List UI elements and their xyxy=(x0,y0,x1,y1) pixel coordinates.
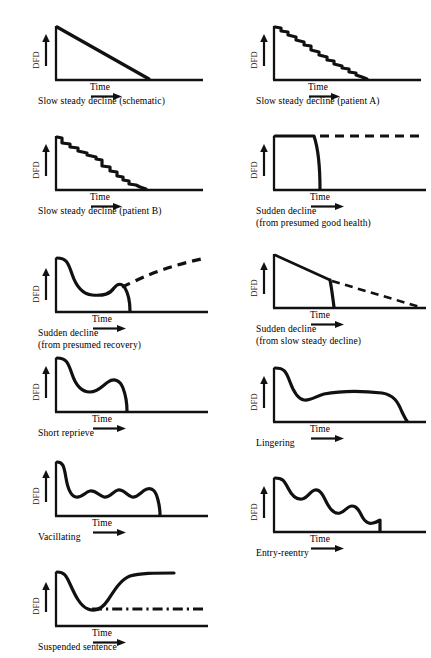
y-axis-label: DFD xyxy=(249,393,259,411)
trajectory-curve xyxy=(275,27,367,79)
y-axis-label: DFD xyxy=(249,279,259,297)
y-axis-label: DFD xyxy=(31,487,41,505)
expected-trajectory-dashed xyxy=(332,281,420,307)
plot-area: DFD xyxy=(248,126,428,198)
plot-area: DFD xyxy=(30,348,210,420)
x-axis-caption: Time xyxy=(310,534,346,553)
caption-line-1: Entry-reentry xyxy=(256,547,309,558)
x-axis-label: Time xyxy=(92,414,112,424)
y-axis-label: DFD xyxy=(31,597,41,615)
trajectory-curve xyxy=(275,368,407,421)
plot-area: DFD xyxy=(248,16,423,88)
panel-short-reprieve: DFD Time Short reprieve xyxy=(30,348,210,420)
x-axis-label: Time xyxy=(90,192,110,202)
panel-lingering: DFD Time Lingering xyxy=(248,358,428,430)
caption-line-1: Vacillating xyxy=(38,531,81,542)
plot-area: DFD xyxy=(248,358,428,430)
caption-line-1: Sudden decline xyxy=(256,205,316,216)
y-axis-arrow-head xyxy=(42,582,50,590)
y-axis-arrow-head xyxy=(260,376,268,384)
plot-area: DFD xyxy=(248,468,428,540)
plot-area: DFD xyxy=(30,242,210,322)
dying-trajectories-figure: DFD Time Slow steady decline (schematic)… xyxy=(0,0,431,658)
caption-line-1: Sudden decline xyxy=(38,327,98,338)
panel-caption: Vacillating xyxy=(38,531,81,543)
panel-slow-steady-decline-patient-a: DFD Time Slow steady decline (patient A) xyxy=(248,16,423,88)
y-axis-label: DFD xyxy=(249,503,259,521)
caption-line-2: (from presumed good health) xyxy=(256,217,371,229)
trajectory-curve xyxy=(275,136,320,189)
y-axis-label: DFD xyxy=(31,161,41,179)
trajectory-curve xyxy=(57,258,130,311)
y-axis-arrow-head xyxy=(42,34,50,42)
x-axis-caption: Time xyxy=(310,424,346,443)
caption-line-1: Slow steady decline (patient B) xyxy=(38,205,162,216)
y-axis-arrow-head xyxy=(42,470,50,478)
caption-line-1: Slow steady decline (schematic) xyxy=(38,95,165,106)
y-axis-arrow-head xyxy=(260,262,268,270)
caption-line-1: Short reprieve xyxy=(38,427,94,438)
panel-caption: Slow steady decline (patient B) xyxy=(38,205,162,217)
panel-suspended-sentence: DFD Time Suspended sentence xyxy=(30,562,210,634)
x-axis-label: Time xyxy=(92,314,112,324)
x-axis-caption: Time xyxy=(92,518,128,537)
y-axis-label: DFD xyxy=(31,383,41,401)
y-axis-arrow-head xyxy=(42,366,50,374)
x-axis-label: Time xyxy=(310,424,330,434)
x-axis-label: Time xyxy=(310,192,330,202)
plot-area: DFD xyxy=(30,16,205,88)
panel-caption: Sudden decline (from slow steady decline… xyxy=(256,323,361,346)
y-axis-arrow-head xyxy=(260,34,268,42)
panel-caption: Slow steady decline (schematic) xyxy=(38,95,165,107)
y-axis-arrow-head xyxy=(42,268,50,276)
y-axis-label: DFD xyxy=(31,51,41,69)
panel-entry-reentry: DFD Time Entry-reentry xyxy=(248,468,428,540)
caption-line-2: (from slow steady decline) xyxy=(256,335,361,347)
plot-area: DFD xyxy=(248,244,428,316)
x-axis-label: Time xyxy=(308,82,328,92)
panel-caption: Lingering xyxy=(256,437,295,449)
panel-caption: Entry-reentry xyxy=(256,547,309,559)
y-axis-arrow-head xyxy=(260,144,268,152)
panel-slow-steady-decline-patient-b: DFD Time Slow steady decline (patient B) xyxy=(30,126,205,198)
panel-caption: Sudden decline (from presumed recovery) xyxy=(38,327,141,350)
panel-caption: Sudden decline (from presumed good healt… xyxy=(256,205,371,228)
x-axis-arrow-icon xyxy=(310,434,346,443)
plot-area: DFD xyxy=(30,126,205,198)
x-axis-label: Time xyxy=(310,310,330,320)
y-axis-label: DFD xyxy=(249,161,259,179)
trajectory-curve xyxy=(57,572,174,610)
x-axis-label: Time xyxy=(310,534,330,544)
trajectory-curve xyxy=(275,255,330,280)
panel-caption: Short reprieve xyxy=(38,427,94,439)
y-axis-label: DFD xyxy=(249,51,259,69)
trajectory-curve xyxy=(57,462,160,515)
plot-area: DFD xyxy=(30,562,210,634)
x-axis-arrow-icon xyxy=(92,424,128,433)
trajectory-curve xyxy=(57,27,149,79)
y-axis-arrow-head xyxy=(42,144,50,152)
trajectory-curve xyxy=(57,137,146,189)
plot-area: DFD xyxy=(30,452,210,524)
caption-line-1: Lingering xyxy=(256,437,295,448)
panel-sudden-decline-good-health: DFD Time Sudden decline (from presumed g… xyxy=(248,126,428,198)
panel-vacillating: DFD Time Vacillating xyxy=(30,452,210,524)
terminal-drop xyxy=(330,280,334,307)
y-axis-label: DFD xyxy=(31,285,41,303)
panel-slow-steady-decline-schematic: DFD Time Slow steady decline (schematic) xyxy=(30,16,205,88)
caption-line-1: Sudden decline xyxy=(256,323,316,334)
caption-line-1: Slow steady decline (patient A) xyxy=(256,95,380,106)
panel-sudden-decline-presumed-recovery: DFD Time Sudden decline (from presumed r… xyxy=(30,242,210,322)
panel-sudden-decline-slow-steady-decline: DFD Time Sudden decline (from slow stead… xyxy=(248,244,428,316)
trajectory-curve xyxy=(275,478,380,531)
x-axis-caption: Time xyxy=(92,414,128,433)
x-axis-label: Time xyxy=(92,518,112,528)
x-axis-arrow-icon xyxy=(310,544,346,553)
x-axis-label: Time xyxy=(90,82,110,92)
expected-trajectory-dashed xyxy=(122,258,206,287)
trajectory-curve xyxy=(57,358,127,411)
y-axis-arrow-head xyxy=(260,486,268,494)
panel-caption: Suspended sentence xyxy=(38,641,117,653)
caption-line-1: Suspended sentence xyxy=(38,641,117,652)
panel-caption: Slow steady decline (patient A) xyxy=(256,95,380,107)
